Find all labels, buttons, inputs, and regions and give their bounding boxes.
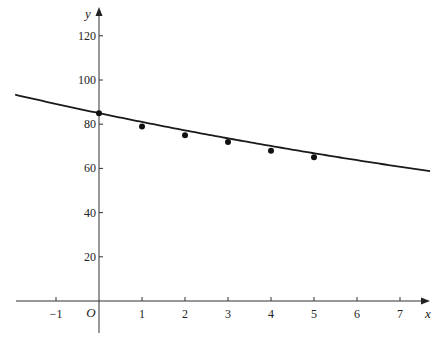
- data-point: [225, 139, 231, 145]
- y-tick-label: 120: [78, 29, 96, 43]
- data-point: [139, 123, 145, 129]
- fitted-curve: [15, 95, 430, 171]
- chart-svg: x y O −11234567 20406080100120: [0, 0, 445, 348]
- data-point: [268, 148, 274, 154]
- x-tick-label: 7: [397, 307, 403, 321]
- y-axis-label: y: [83, 6, 91, 21]
- y-tick-label: 40: [84, 206, 96, 220]
- x-tick-label: 1: [139, 307, 145, 321]
- x-axis-label: x: [424, 306, 431, 321]
- data-point: [182, 132, 188, 138]
- x-tick-label: 5: [311, 307, 317, 321]
- axes: x y O: [16, 6, 431, 333]
- y-tick-label: 80: [84, 117, 96, 131]
- x-tick-label: 4: [268, 307, 274, 321]
- x-tick-label: 3: [225, 307, 231, 321]
- x-axis-arrow: [421, 298, 430, 305]
- y-tick-label: 60: [84, 161, 96, 175]
- origin-label: O: [86, 305, 96, 320]
- chart-container: x y O −11234567 20406080100120: [0, 0, 445, 348]
- y-tick-label: 20: [84, 250, 96, 264]
- data-point: [311, 154, 317, 160]
- y-axis-arrow: [96, 7, 103, 16]
- x-tick-label: 6: [354, 307, 360, 321]
- y-tick-label: 100: [78, 73, 96, 87]
- x-tick-label: −1: [50, 307, 63, 321]
- data-point: [96, 110, 102, 116]
- x-tick-label: 2: [182, 307, 188, 321]
